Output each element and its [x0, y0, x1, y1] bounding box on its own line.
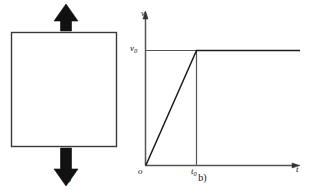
panel-b-graphics — [130, 0, 310, 193]
panel-b-caption: b) — [130, 172, 275, 183]
panel-a-block-diagram — [0, 0, 135, 193]
square-block-outline — [12, 33, 117, 147]
v0-tick-label: v0 — [130, 44, 137, 53]
panel-a-graphics — [0, 0, 135, 193]
panel-a-caption: a) — [0, 172, 135, 183]
t-axis-label: t — [296, 165, 299, 174]
up-arrow-icon — [54, 4, 78, 31]
velocity-ramp-segment — [146, 51, 197, 166]
v-axis-label: v — [141, 9, 145, 18]
figure-root: v v0 o t0 t a) b) — [0, 0, 310, 193]
panel-b-velocity-time-graph — [130, 0, 310, 193]
v0-tick-label-sub: 0 — [134, 47, 137, 54]
